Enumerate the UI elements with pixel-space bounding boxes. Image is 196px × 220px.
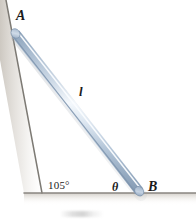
figure-container: A B l θ 105°	[0, 0, 196, 220]
point-label-b: B	[148, 180, 157, 194]
rod-diagram-svg	[0, 0, 196, 220]
rod-length-label: l	[79, 85, 83, 98]
angle-105-label: 105°	[48, 180, 70, 191]
ground-shadow	[24, 193, 196, 205]
angle-theta-label: θ	[112, 181, 118, 193]
wall-shadow	[0, 0, 42, 193]
point-label-a: A	[16, 9, 25, 23]
